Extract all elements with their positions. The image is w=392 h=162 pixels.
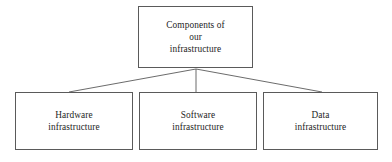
node-root: Components of our infrastructure [138, 6, 253, 68]
diagram-canvas: Components of our infrastructure Hardwar… [0, 0, 392, 162]
connector-root-to-data [196, 69, 322, 92]
node-hardware-label: Hardware infrastructure [48, 109, 99, 134]
node-software: Software infrastructure [139, 92, 257, 150]
node-data-label: Data infrastructure [295, 109, 346, 134]
node-hardware: Hardware infrastructure [15, 92, 133, 150]
node-root-label: Components of our infrastructure [166, 19, 224, 56]
node-software-label: Software infrastructure [172, 109, 223, 134]
node-data: Data infrastructure [263, 92, 378, 150]
connector-root-to-hardware [69, 69, 196, 92]
